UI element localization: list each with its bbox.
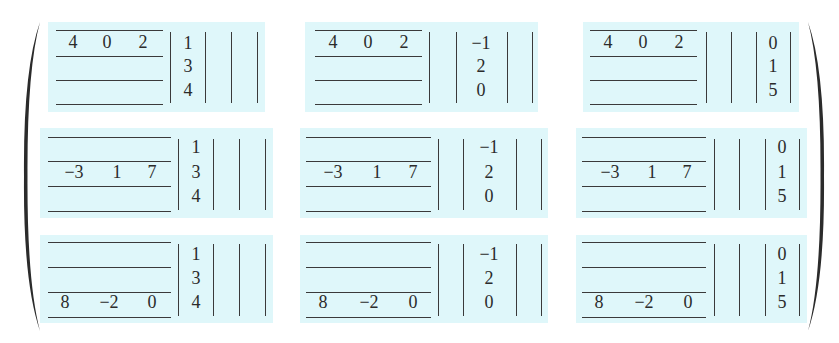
row-rule xyxy=(56,30,163,31)
row-rule xyxy=(56,104,163,105)
row-rule xyxy=(315,104,422,105)
row-entry: 0 xyxy=(364,32,373,52)
column-rule xyxy=(714,139,715,210)
column-rule xyxy=(205,32,206,103)
row-rule xyxy=(582,211,706,212)
row-entry: 4 xyxy=(69,32,78,52)
column-rule xyxy=(438,244,439,316)
row-entry: 4 xyxy=(329,32,338,52)
column-rule xyxy=(756,32,757,103)
column-rule xyxy=(541,244,542,316)
column-rule xyxy=(706,32,707,103)
column-entry: 2 xyxy=(485,162,494,182)
column-rule xyxy=(213,139,214,210)
row-rule xyxy=(48,137,171,138)
row-entry: 8 xyxy=(595,292,604,312)
column-rule xyxy=(714,244,715,316)
column-entry: 1 xyxy=(184,33,193,53)
column-rule xyxy=(170,32,171,103)
row-entry: 7 xyxy=(148,162,157,182)
column-rule xyxy=(239,139,240,210)
column-rule xyxy=(739,244,740,316)
column-rule xyxy=(456,32,457,103)
row-entry: 0 xyxy=(148,292,157,312)
column-rule xyxy=(265,244,266,316)
column-entry: 3 xyxy=(192,162,201,182)
column-entry: −1 xyxy=(479,137,498,157)
row-rule xyxy=(582,267,706,268)
left-parenthesis xyxy=(24,22,40,331)
row-rule xyxy=(590,56,697,57)
column-rule xyxy=(231,32,232,103)
column-rule xyxy=(765,244,766,316)
column-rule xyxy=(178,244,179,316)
column-entry: 0 xyxy=(485,292,494,312)
column-entry: 4 xyxy=(192,292,201,312)
column-entry: 1 xyxy=(778,268,787,288)
column-rule xyxy=(463,244,464,316)
row-entry: 0 xyxy=(639,32,648,52)
row-entry: −2 xyxy=(634,292,653,312)
column-rule xyxy=(799,244,800,316)
column-rule xyxy=(213,244,214,316)
column-rule xyxy=(463,139,464,210)
row-rule xyxy=(582,137,706,138)
row-entry: 4 xyxy=(604,32,613,52)
right-parenthesis xyxy=(808,22,824,331)
row-rule xyxy=(582,317,706,318)
column-entry: 1 xyxy=(769,56,778,76)
row-entry: 8 xyxy=(61,292,70,312)
row-rule xyxy=(56,80,163,81)
product-cell xyxy=(300,235,548,323)
product-cell xyxy=(48,22,265,112)
column-entry: −1 xyxy=(479,244,498,264)
row-entry: 7 xyxy=(409,162,418,182)
column-entry: 5 xyxy=(778,186,787,206)
row-rule xyxy=(315,30,422,31)
row-rule xyxy=(315,56,422,57)
column-entry: −1 xyxy=(471,33,490,53)
row-rule xyxy=(56,56,163,57)
row-rule xyxy=(48,186,171,187)
column-entry: 0 xyxy=(778,244,787,264)
column-entry: 4 xyxy=(192,186,201,206)
row-rule xyxy=(48,242,171,243)
row-entry: −3 xyxy=(64,162,83,182)
column-rule xyxy=(765,139,766,210)
column-rule xyxy=(516,139,517,210)
column-rule xyxy=(516,244,517,316)
row-rule xyxy=(582,186,706,187)
column-rule xyxy=(541,139,542,210)
row-rule xyxy=(306,317,431,318)
column-rule xyxy=(739,139,740,210)
row-rule xyxy=(590,30,697,31)
row-entry: 2 xyxy=(400,32,409,52)
row-entry: 0 xyxy=(684,292,693,312)
column-rule xyxy=(731,32,732,103)
row-entry: 8 xyxy=(319,292,328,312)
column-entry: 1 xyxy=(192,137,201,157)
column-entry: 0 xyxy=(778,137,787,157)
row-entry: 2 xyxy=(139,32,148,52)
column-rule xyxy=(265,139,266,210)
column-entry: 0 xyxy=(485,186,494,206)
row-rule xyxy=(590,80,697,81)
row-rule xyxy=(582,242,706,243)
column-entry: 5 xyxy=(778,292,787,312)
row-rule xyxy=(48,211,171,212)
column-entry: 3 xyxy=(192,268,201,288)
column-entry: 4 xyxy=(184,80,193,100)
column-entry: 0 xyxy=(477,80,486,100)
column-entry: 1 xyxy=(192,244,201,264)
row-entry: 7 xyxy=(683,162,692,182)
column-rule xyxy=(799,139,800,210)
column-entry: 2 xyxy=(477,56,486,76)
column-entry: 1 xyxy=(778,162,787,182)
column-entry: 3 xyxy=(184,56,193,76)
row-rule xyxy=(48,267,171,268)
column-entry: 2 xyxy=(485,268,494,288)
product-cell xyxy=(305,22,538,112)
column-rule xyxy=(257,32,258,103)
column-rule xyxy=(178,139,179,210)
column-rule xyxy=(507,32,508,103)
